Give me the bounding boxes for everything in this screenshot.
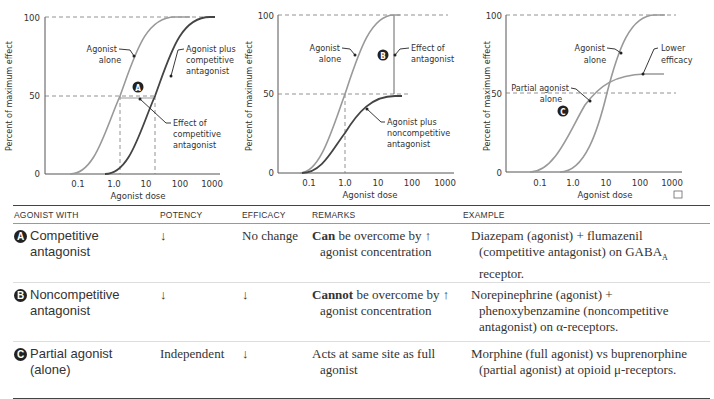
svg-text:50: 50 bbox=[29, 90, 40, 101]
svg-text:10: 10 bbox=[373, 177, 384, 188]
svg-text:antagonist: antagonist bbox=[411, 54, 454, 64]
svg-text:Agonist dose: Agonist dose bbox=[342, 189, 397, 200]
svg-text:0: 0 bbox=[269, 167, 274, 178]
badge-a-icon: A bbox=[14, 230, 27, 243]
table-row: BNoncompetitiveantagonist ↓ ↓ Cannot be … bbox=[13, 283, 710, 342]
svg-text:0: 0 bbox=[35, 168, 40, 179]
svg-text:1.0: 1.0 bbox=[566, 177, 580, 188]
chart-competitive: Percent of maximum effect 100 50 0 0.1 1… bbox=[4, 12, 236, 201]
svg-text:competitive: competitive bbox=[186, 55, 234, 65]
chart-noncompetitive: Percent of maximum effect 100 50 0 0.1 1… bbox=[244, 10, 456, 200]
svg-text:alone: alone bbox=[319, 54, 341, 64]
x-axis-label: Agonist dose bbox=[110, 190, 165, 201]
svg-text:Agonist plus: Agonist plus bbox=[186, 44, 236, 54]
badge-b-icon: B bbox=[14, 289, 27, 302]
svg-text:Effect of: Effect of bbox=[173, 118, 207, 128]
svg-text:Agonist: Agonist bbox=[87, 44, 117, 54]
figure-icon bbox=[674, 191, 682, 198]
svg-text:noncompetitive: noncompetitive bbox=[387, 128, 450, 138]
svg-text:1.0: 1.0 bbox=[107, 178, 121, 189]
svg-text:100: 100 bbox=[404, 177, 420, 188]
svg-text:antagonist: antagonist bbox=[387, 139, 430, 149]
table-row: ACompetitiveantagonist ↓ No change Can b… bbox=[13, 224, 710, 283]
svg-text:Partial agonist: Partial agonist bbox=[511, 83, 569, 93]
svg-text:1000: 1000 bbox=[201, 178, 223, 189]
svg-text:100: 100 bbox=[24, 12, 40, 23]
svg-text:100: 100 bbox=[258, 10, 274, 21]
svg-text:Agonist: Agonist bbox=[310, 43, 340, 53]
y-axis-label: Percent of maximum effect bbox=[4, 41, 14, 151]
svg-text:A: A bbox=[135, 84, 141, 93]
chart-partial-agonist: Percent of maximum effect 100 50 0 0.1 1… bbox=[482, 10, 693, 200]
svg-text:100: 100 bbox=[486, 10, 502, 21]
svg-text:alone: alone bbox=[584, 55, 606, 65]
svg-text:1000: 1000 bbox=[434, 177, 456, 188]
svg-text:C: C bbox=[560, 108, 565, 117]
svg-text:antagonist: antagonist bbox=[173, 140, 216, 150]
svg-text:alone: alone bbox=[99, 55, 121, 65]
svg-text:0.1: 0.1 bbox=[533, 177, 547, 188]
svg-text:100: 100 bbox=[632, 177, 648, 188]
svg-text:Agonist plus: Agonist plus bbox=[387, 117, 437, 127]
table-header: AGONIST WITH POTENCY EFFICACY REMARKS EX… bbox=[13, 206, 710, 224]
dose-response-charts: Percent of maximum effect 100 50 0 0.1 1… bbox=[0, 0, 714, 204]
svg-text:0.1: 0.1 bbox=[71, 178, 85, 189]
svg-text:10: 10 bbox=[601, 177, 612, 188]
comparison-table: AGONIST WITH POTENCY EFFICACY REMARKS EX… bbox=[13, 205, 710, 399]
svg-text:B: B bbox=[380, 52, 385, 61]
svg-text:Effect of: Effect of bbox=[411, 43, 445, 53]
svg-text:alone: alone bbox=[540, 94, 562, 104]
svg-text:1.0: 1.0 bbox=[338, 177, 352, 188]
svg-text:Agonist: Agonist bbox=[575, 43, 605, 53]
svg-text:0.1: 0.1 bbox=[302, 177, 316, 188]
svg-text:10: 10 bbox=[141, 178, 152, 189]
svg-text:antagonist: antagonist bbox=[186, 66, 229, 76]
svg-text:0: 0 bbox=[497, 167, 502, 178]
svg-text:1000: 1000 bbox=[661, 177, 683, 188]
svg-text:100: 100 bbox=[172, 178, 188, 189]
svg-text:50: 50 bbox=[263, 88, 274, 99]
svg-text:Lower: Lower bbox=[661, 43, 686, 53]
table-row: CPartial agonist(alone) Independent ↓ Ac… bbox=[13, 342, 710, 398]
svg-text:competitive: competitive bbox=[173, 129, 221, 139]
svg-text:efficacy: efficacy bbox=[661, 55, 693, 65]
svg-text:Agonist dose: Agonist dose bbox=[577, 189, 632, 200]
badge-c-icon: C bbox=[14, 348, 27, 361]
svg-text:Percent of maximum effect: Percent of maximum effect bbox=[244, 41, 254, 151]
svg-text:50: 50 bbox=[491, 88, 502, 99]
